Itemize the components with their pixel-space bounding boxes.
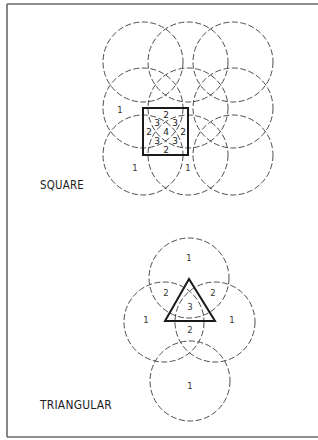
triangular-pattern-group: 11112223 TRIANGULAR — [39, 238, 255, 421]
overlap-count-label: 1 — [132, 163, 137, 173]
coverage-pattern-diagram: 111222233334 SQUARE 11112223 TRIANGULAR — [0, 0, 318, 440]
coverage-circle — [103, 22, 183, 102]
overlap-count-label: 1 — [185, 163, 190, 173]
square-pattern-group: 111222233334 SQUARE — [40, 22, 273, 195]
overlap-count-label: 1 — [186, 253, 191, 263]
figure-frame — [7, 4, 318, 437]
overlap-count-label: 1 — [117, 105, 122, 115]
overlap-count-label: 2 — [163, 110, 169, 120]
overlap-count-label: 2 — [163, 145, 169, 155]
overlap-count-label: 2 — [146, 127, 152, 137]
overlap-count-label: 3 — [154, 136, 160, 146]
coverage-circle — [193, 68, 273, 148]
coverage-circle — [193, 22, 273, 102]
overlap-count-label: 1 — [143, 315, 148, 325]
coverage-circle — [148, 22, 228, 102]
coverage-circle — [193, 115, 273, 195]
overlap-count-label: 2 — [187, 325, 192, 335]
overlap-count-label: 2 — [180, 127, 186, 137]
overlap-count-label: 1 — [187, 381, 192, 391]
overlap-count-label: 3 — [154, 118, 160, 128]
overlap-count-label: 2 — [163, 288, 168, 298]
square-pattern-title: SQUARE — [40, 177, 84, 192]
overlap-count-label: 3 — [172, 136, 178, 146]
triangular-pattern-title: TRIANGULAR — [39, 397, 112, 412]
overlap-count-label: 4 — [163, 127, 169, 137]
overlap-count-label: 3 — [172, 118, 178, 128]
overlap-count-label: 3 — [187, 302, 192, 312]
overlap-count-label: 1 — [229, 315, 234, 325]
overlap-count-label: 2 — [210, 288, 215, 298]
